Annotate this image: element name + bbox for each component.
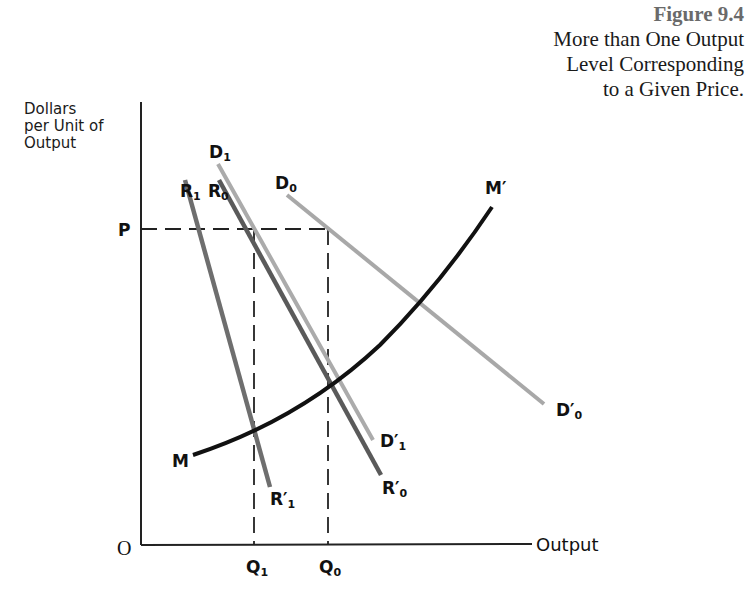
price-label: P — [118, 220, 130, 240]
d1-curve — [218, 164, 373, 440]
r0-curve — [219, 180, 381, 475]
m-prime-label: M′ — [485, 178, 507, 198]
figure-root: Figure 9.4 More than One Output Level Co… — [0, 0, 752, 599]
x-axis-label: Output — [536, 534, 599, 555]
d1-label: D1 — [209, 142, 231, 164]
r0-label: R0 — [208, 181, 229, 203]
q1-label: Q1 — [246, 557, 268, 579]
d1-prime-label: D′1 — [380, 431, 406, 453]
d0-label: D0 — [275, 173, 297, 195]
r1-prime-label: R′1 — [270, 489, 295, 511]
r1-label: R1 — [180, 181, 201, 203]
m-label: M — [172, 451, 189, 471]
d0-prime-label: D′0 — [556, 400, 583, 422]
chart-plot: D1 D0 R1 R0 M′ M D′1 D′0 R′1 R′0 P Q1 Q0… — [0, 0, 752, 599]
origin-label: O — [117, 537, 131, 559]
r0-prime-label: R′0 — [382, 478, 408, 500]
m-curve — [193, 207, 492, 455]
x-axis — [141, 544, 532, 545]
q0-label: Q0 — [319, 557, 341, 579]
